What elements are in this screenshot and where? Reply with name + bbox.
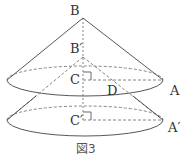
- label-C: C: [70, 73, 80, 86]
- lower-edge-left: [7, 96, 36, 120]
- cone-figure: [0, 0, 183, 161]
- label-B-prime: B′: [70, 42, 83, 55]
- label-C-prime: C′: [70, 114, 83, 127]
- label-D: D: [107, 84, 117, 97]
- right-angle-Cp: [83, 112, 91, 120]
- lower-base-back: [7, 106, 163, 120]
- upper-base-back: [7, 66, 163, 80]
- cone-edge-right: [83, 18, 163, 80]
- figure-caption: 図3: [76, 143, 96, 155]
- cone-diagram: B B′ C D A C′ A′ 図3: [0, 0, 183, 161]
- lower-base-front: [7, 120, 163, 136]
- label-A-prime: A′: [168, 121, 180, 134]
- label-A: A: [170, 84, 179, 97]
- right-angle-C: [83, 72, 91, 80]
- upper-base-front: [7, 80, 163, 96]
- label-B: B: [70, 4, 80, 17]
- lower-edge-right: [133, 96, 163, 120]
